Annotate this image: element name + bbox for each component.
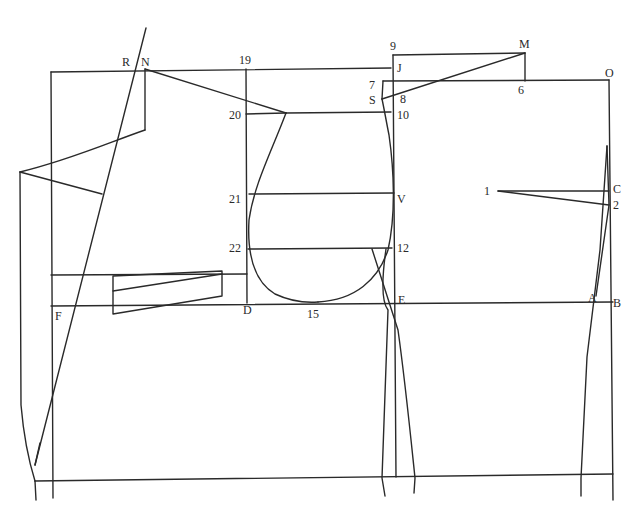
line-7-O-line [383,80,609,81]
point-label-22: 22 [229,241,241,255]
point-label-v: V [397,192,406,206]
point-label-j: J [397,61,402,75]
right-vertical-O-B-line [609,80,613,500]
point-label-b: B [613,296,621,310]
line-21-V-line [249,193,394,194]
back-hem-line [35,474,613,481]
point-label-a: A [588,291,597,305]
line-22-12-line [248,248,392,249]
point-label-19: 19 [239,53,251,67]
point-label-15: 15 [307,307,319,321]
line-20-10-line [286,112,391,113]
point-label-f: F [55,309,62,323]
point-label-e: E [398,293,405,307]
armhole-back-line [249,113,318,302]
point-label-d: D [243,303,252,317]
top-9-M-line [393,53,525,55]
point-label-21: 21 [229,192,241,206]
center-front-vertical-line [393,55,396,477]
dart-1-2-line [498,191,609,205]
point-label-c: C [613,182,621,196]
side-seam-left-b-line [382,249,388,496]
armhole-front-line [318,99,393,302]
point-label-s: S [369,93,376,107]
front-left-edge-line [20,172,35,481]
point-label-o: O [605,66,614,80]
line-19-D-line [246,69,247,303]
waist-line-line [51,302,613,306]
line-7-S-line [382,81,383,99]
point-label-9: 9 [390,39,396,53]
point-label-8: 8 [400,92,406,106]
lapel-N-20-line [145,69,286,113]
point-label-10: 10 [397,108,409,122]
point-label-20: 20 [229,108,241,122]
back-left-vertical-line [51,72,53,498]
line-20-line [246,113,286,114]
pattern-diagram: RN199JMO7S8620101C21V22212FD15EAB [0,0,638,515]
point-label-12: 12 [397,241,409,255]
stand-tick-line [35,443,40,465]
point-label-1: 1 [484,184,490,198]
pocket-inner-line [113,274,222,291]
point-label-r: R [122,55,130,69]
point-label-6: 6 [518,83,524,97]
collar-diag-line [20,172,102,194]
side-seam-left-a-line [372,249,415,493]
point-label-n: N [141,55,150,69]
pattern-lines [20,28,613,500]
collar-to-left-line [20,130,145,172]
pocket-outer-line [113,271,222,314]
pattern-svg: RN199JMO7S8620101C21V22212FD15EAB [0,0,638,515]
top-back-line-line [51,68,391,72]
stand-line-low-line [35,481,36,500]
point-label-2: 2 [613,198,619,212]
point-label-m: M [519,37,530,51]
side-seam-right-line [581,146,607,496]
point-label-7: 7 [369,78,375,92]
